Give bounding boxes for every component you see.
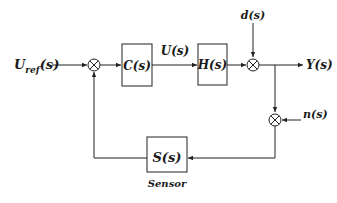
sensor-input-line	[188, 126, 275, 158]
control-signal-label: U(s)	[161, 44, 190, 58]
block-diagram: Uref(s) C(s) U(s) H(s) d(s) Y(s)	[0, 0, 337, 203]
plant-label: H(s)	[197, 58, 227, 72]
controller-label: C(s)	[123, 59, 151, 73]
error-summing-junction	[88, 59, 100, 71]
disturbance-label: d(s)	[241, 9, 265, 22]
disturbance-summing-junction	[247, 59, 259, 71]
input-label: Uref(s)	[14, 57, 59, 75]
controller-block: C(s)	[122, 44, 152, 86]
sensor-caption: Sensor	[148, 178, 187, 189]
noise-summing-junction	[269, 114, 281, 126]
noise-label: n(s)	[303, 108, 328, 121]
sensor-label: S(s)	[152, 150, 181, 165]
plant-block: H(s)	[197, 44, 227, 85]
sensor-block: S(s)	[147, 137, 187, 172]
output-label: Y(s)	[306, 58, 333, 72]
